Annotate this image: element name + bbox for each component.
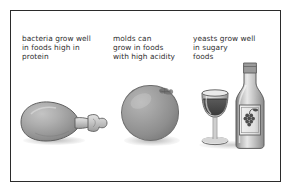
wine-glass-shape [202,90,228,145]
panel-molds: molds can grow in foods with high acidit… [111,11,191,181]
panel-bacteria: bacteria grow well in foods high in prot… [11,11,111,181]
orange-illustration [119,83,187,153]
drumstick-icon [15,96,111,154]
caption-molds: molds can grow in foods with high acidit… [113,34,191,62]
caption-bacteria: bacteria grow well in foods high in prot… [22,34,112,62]
panel-yeasts: yeasts grow well in sugary foods [191,11,281,181]
wine-illustration [193,53,281,155]
wine-bottle-and-glass-icon [193,53,281,155]
orange-stem-icon [119,83,187,153]
figure-frame: bacteria grow well in foods high in prot… [10,10,281,182]
wine-bottle-shape [236,63,264,148]
drumstick-illustration [15,96,111,154]
